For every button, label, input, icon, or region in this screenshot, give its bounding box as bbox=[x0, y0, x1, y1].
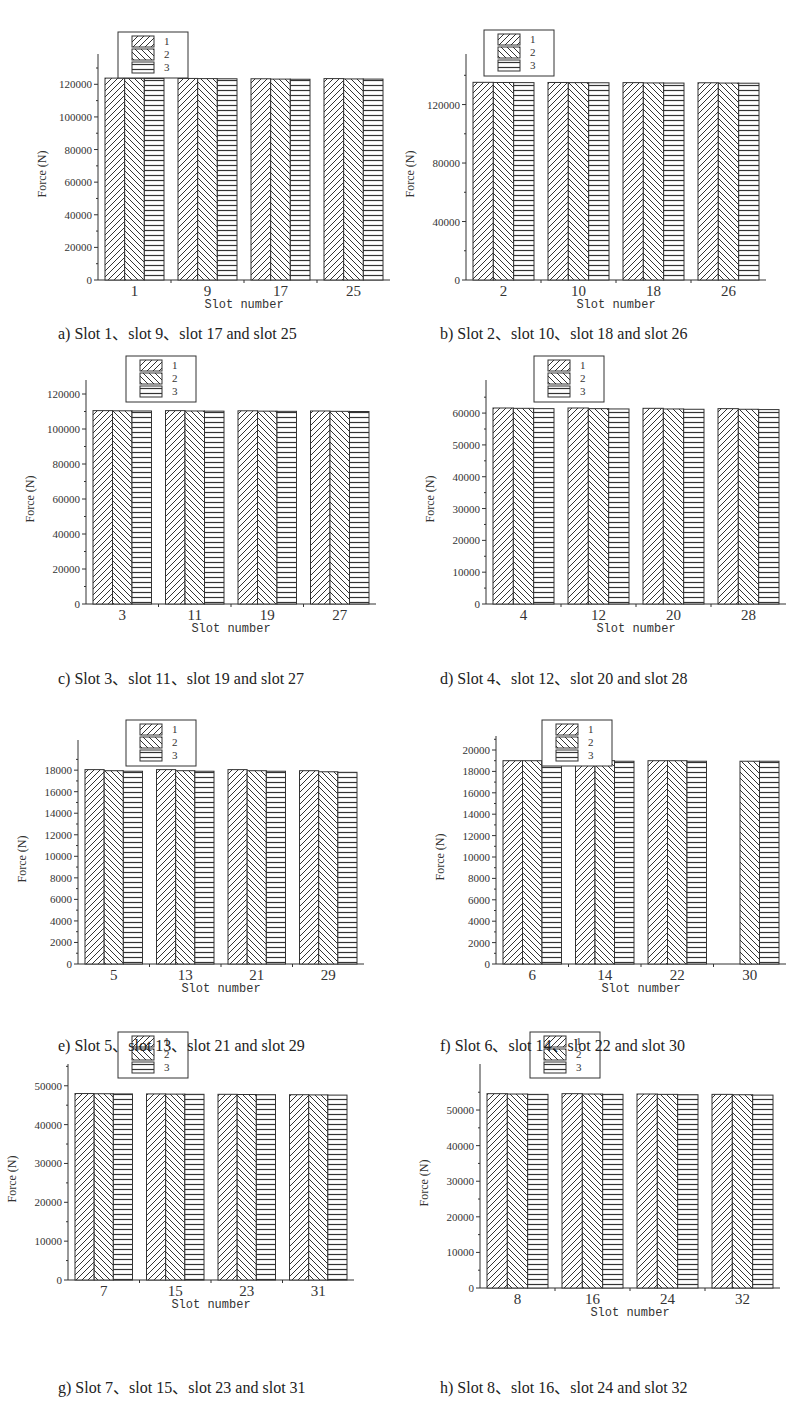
bar-series-2 bbox=[258, 411, 278, 604]
legend-label: 1 bbox=[164, 35, 170, 47]
y-tick-label: 40000 bbox=[35, 1119, 63, 1131]
x-tick-label: 2 bbox=[500, 283, 508, 299]
y-tick-label: 80000 bbox=[53, 458, 81, 470]
bar-chart-a: 020000400006000080000100000120000Force (… bbox=[30, 28, 400, 303]
y-tick-label: 80000 bbox=[433, 157, 461, 169]
bar-series-1 bbox=[493, 408, 513, 604]
y-tick-label: 10000 bbox=[35, 1235, 63, 1247]
bar-series-3 bbox=[664, 83, 684, 280]
bar-series-2 bbox=[247, 771, 266, 964]
x-axis-label: Slot number bbox=[191, 622, 270, 636]
y-axis-label: Force (N) bbox=[403, 151, 417, 198]
y-tick-label: 30000 bbox=[35, 1157, 63, 1169]
legend-swatch-1 bbox=[498, 34, 520, 45]
bar-chart-f: 0200040006000800010000120001400016000180… bbox=[400, 720, 770, 995]
y-tick-label: 40000 bbox=[53, 528, 81, 540]
y-tick-label: 20000 bbox=[453, 534, 481, 546]
y-tick-label: 50000 bbox=[453, 439, 481, 451]
bar-series-3 bbox=[256, 1095, 275, 1280]
x-tick-label: 24 bbox=[660, 1291, 676, 1307]
legend-label: 3 bbox=[164, 1061, 170, 1073]
bar-series-3 bbox=[266, 771, 285, 964]
y-tick-label: 10000 bbox=[447, 1246, 475, 1258]
legend-swatch-2 bbox=[140, 737, 162, 748]
x-axis-label: Slot number bbox=[171, 1298, 250, 1312]
y-tick-label: 6000 bbox=[468, 894, 491, 906]
legend-swatch-3 bbox=[132, 62, 154, 73]
x-tick-label: 7 bbox=[100, 1283, 108, 1299]
y-tick-label: 0 bbox=[485, 958, 491, 970]
bar-series-3 bbox=[290, 79, 310, 280]
y-tick-label: 14000 bbox=[45, 807, 73, 819]
x-tick-label: 15 bbox=[168, 1283, 183, 1299]
legend-swatch-3 bbox=[140, 750, 162, 761]
bar-series-1 bbox=[218, 1094, 237, 1280]
legend-swatch-1 bbox=[140, 724, 162, 735]
x-tick-label: 20 bbox=[666, 607, 681, 623]
x-axis-label: Slot number bbox=[181, 982, 260, 996]
bar-series-3 bbox=[338, 772, 357, 964]
y-tick-label: 20000 bbox=[463, 744, 491, 756]
bar-series-2 bbox=[738, 409, 758, 604]
x-tick-label: 16 bbox=[585, 1291, 601, 1307]
y-tick-label: 6000 bbox=[50, 893, 73, 905]
bar-series-1 bbox=[643, 408, 663, 604]
y-tick-label: 40000 bbox=[65, 209, 93, 221]
bar-series-1 bbox=[147, 1094, 166, 1280]
y-axis-label: Force (N) bbox=[35, 151, 49, 198]
bar-series-3 bbox=[684, 409, 704, 604]
bar-series-1 bbox=[93, 411, 113, 604]
x-tick-label: 19 bbox=[260, 607, 275, 623]
x-tick-label: 30 bbox=[742, 967, 757, 983]
bar-series-3 bbox=[123, 771, 142, 964]
bar-series-3 bbox=[542, 761, 562, 964]
bar-series-2 bbox=[104, 771, 123, 964]
bar-series-1 bbox=[228, 770, 247, 964]
legend-label: 3 bbox=[580, 385, 586, 397]
legend-swatch-2 bbox=[498, 47, 520, 58]
chart-panel-a: 020000400006000080000100000120000Force (… bbox=[30, 28, 400, 303]
bar-series-2 bbox=[185, 411, 205, 604]
bar-series-1 bbox=[576, 761, 596, 964]
bar-series-1 bbox=[487, 1094, 507, 1288]
x-axis-label: Slot number bbox=[576, 298, 655, 312]
legend-swatch-1 bbox=[556, 724, 578, 735]
bar-chart-g: 01000020000300004000050000Force (N)71523… bbox=[30, 1062, 400, 1337]
bar-series-1 bbox=[251, 79, 271, 280]
chart-panel-h: 01000020000300004000050000Force (N)81624… bbox=[400, 1062, 770, 1337]
legend-label: 2 bbox=[588, 736, 594, 748]
bar-series-1 bbox=[166, 411, 186, 604]
legend: 123 bbox=[126, 356, 196, 402]
x-tick-label: 25 bbox=[346, 283, 361, 299]
y-tick-label: 8000 bbox=[50, 872, 73, 884]
bar-series-1 bbox=[324, 79, 344, 280]
legend-swatch-3 bbox=[132, 1062, 154, 1073]
bar-series-3 bbox=[205, 411, 225, 604]
bar-series-3 bbox=[328, 1095, 347, 1280]
y-tick-label: 18000 bbox=[45, 764, 73, 776]
legend-label: 3 bbox=[164, 61, 170, 73]
x-tick-label: 11 bbox=[188, 607, 202, 623]
bar-series-3 bbox=[195, 771, 214, 964]
y-axis-label: Force (N) bbox=[423, 476, 437, 523]
y-tick-label: 10000 bbox=[463, 851, 491, 863]
bar-chart-e: 0200040006000800010000120001400016000180… bbox=[30, 720, 400, 995]
y-tick-label: 40000 bbox=[447, 1140, 475, 1152]
x-tick-label: 32 bbox=[735, 1291, 750, 1307]
bar-series-2 bbox=[237, 1095, 256, 1280]
y-axis-label: Force (N) bbox=[417, 1160, 431, 1207]
x-tick-label: 9 bbox=[204, 283, 212, 299]
x-tick-label: 8 bbox=[514, 1291, 522, 1307]
y-tick-label: 16000 bbox=[463, 787, 491, 799]
y-tick-label: 120000 bbox=[427, 99, 461, 111]
bar-series-1 bbox=[300, 771, 319, 964]
x-tick-label: 5 bbox=[110, 967, 118, 983]
y-tick-label: 16000 bbox=[45, 786, 73, 798]
y-tick-label: 18000 bbox=[463, 765, 491, 777]
bar-series-1 bbox=[568, 408, 588, 604]
y-axis-label: Force (N) bbox=[15, 836, 29, 883]
bar-series-2 bbox=[166, 1094, 185, 1280]
bar-series-3 bbox=[759, 410, 779, 604]
chart-caption-b: b) Slot 2、slot 10、slot 18 and slot 26 bbox=[440, 320, 688, 344]
bar-series-1 bbox=[503, 761, 523, 964]
